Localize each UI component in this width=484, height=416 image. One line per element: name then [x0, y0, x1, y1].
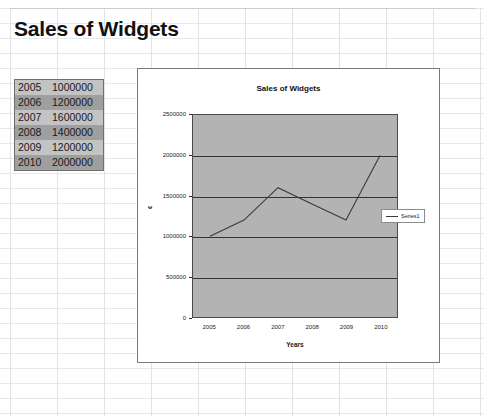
chart-title: Sales of Widgets: [138, 84, 439, 93]
cropped-header-text: [12, 0, 212, 8]
legend-series-label: Series1: [401, 213, 420, 219]
table-row[interactable]: 2009 1200000: [15, 140, 104, 155]
cell-value[interactable]: 2000000: [49, 155, 104, 171]
y-tick-label: 1500000: [142, 193, 186, 199]
cell-value[interactable]: 1400000: [49, 125, 104, 140]
y-tick-label: 2500000: [142, 111, 186, 117]
y-tick-label: 2000000: [142, 152, 186, 158]
x-tick-label: 2007: [263, 324, 293, 330]
cell-year[interactable]: 2007: [15, 110, 50, 125]
x-tick-label: 2008: [297, 324, 327, 330]
cell-value[interactable]: 1200000: [49, 140, 104, 155]
chart-legend[interactable]: Series1: [381, 209, 425, 223]
table-row[interactable]: 2005 1000000: [15, 80, 104, 96]
y-tick-label: 500000: [142, 274, 186, 280]
cell-value[interactable]: 1600000: [49, 110, 104, 125]
page-title: Sales of Widgets: [14, 16, 179, 42]
x-tick-label: 2006: [229, 324, 259, 330]
cell-year[interactable]: 2006: [15, 95, 50, 110]
chart-object[interactable]: Sales of Widgets 05000001000000150000020…: [137, 68, 440, 363]
y-tick-mark: [189, 318, 192, 319]
cell-year[interactable]: 2005: [15, 80, 50, 96]
x-axis-title: Years: [192, 341, 398, 348]
data-table-body: 2005 1000000 2006 1200000 2007 1600000 2…: [15, 80, 104, 171]
cell-value[interactable]: 1200000: [49, 95, 104, 110]
cell-year[interactable]: 2010: [15, 155, 50, 171]
spreadsheet-top-border: [10, 8, 476, 9]
plot-area: [192, 114, 398, 318]
table-row[interactable]: 2010 2000000: [15, 155, 104, 171]
data-table[interactable]: 2005 1000000 2006 1200000 2007 1600000 2…: [14, 79, 104, 171]
x-tick-label: 2009: [332, 324, 362, 330]
y-tick-label: 0: [142, 315, 186, 321]
cell-year[interactable]: 2008: [15, 125, 50, 140]
x-tick-label: 2010: [366, 324, 396, 330]
legend-line-swatch-icon: [386, 216, 398, 217]
series1-line: [210, 155, 380, 236]
y-tick-label: 1000000: [142, 233, 186, 239]
table-row[interactable]: 2007 1600000: [15, 110, 104, 125]
table-row[interactable]: 2008 1400000: [15, 125, 104, 140]
cell-value[interactable]: 1000000: [49, 80, 104, 96]
series-line-chart: [193, 115, 397, 317]
cell-year[interactable]: 2009: [15, 140, 50, 155]
table-row[interactable]: 2006 1200000: [15, 95, 104, 110]
y-axis-title: €: [147, 206, 153, 209]
x-tick-label: 2005: [194, 324, 224, 330]
